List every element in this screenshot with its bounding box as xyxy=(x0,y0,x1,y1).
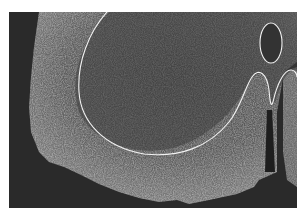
oval-region-outline xyxy=(260,23,282,63)
micrograph-image xyxy=(9,12,297,208)
micrograph-svg xyxy=(9,12,297,208)
